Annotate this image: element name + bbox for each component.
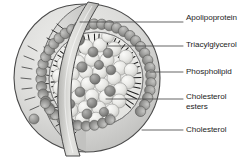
- label-cholesterol: Cholesterol: [186, 125, 226, 135]
- label-cholesterol-esters-line2: esters: [186, 102, 208, 111]
- label-apolipoprotein: Apolipoprotein: [186, 13, 237, 23]
- label-phospholipid: Phospholipid: [186, 67, 232, 77]
- lipoprotein-diagram-figure: Apolipoprotein Triacylglycerol Phospholi…: [0, 0, 241, 157]
- label-cholesterol-esters: Cholesterolesters: [186, 92, 226, 111]
- label-triacylglycerol: Triacylglycerol: [186, 40, 237, 50]
- label-cholesterol-esters-line1: Cholesterol: [186, 92, 226, 101]
- cholesterol-sphere-shell: [29, 114, 39, 124]
